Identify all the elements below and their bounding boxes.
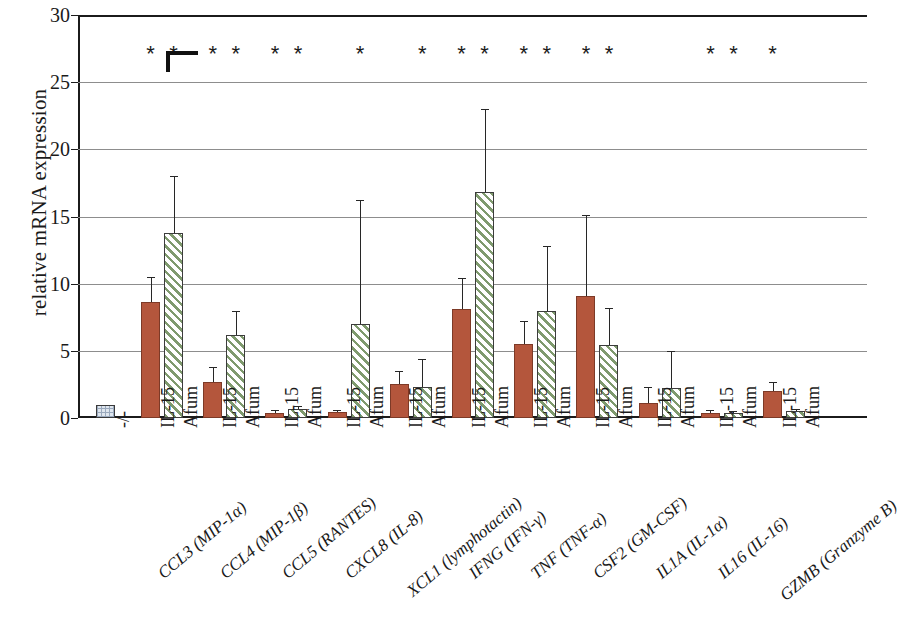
error-bar-cap	[605, 308, 613, 309]
error-bar-cap	[543, 246, 551, 247]
significance-asterisk: *	[542, 43, 551, 65]
significance-asterisk: *	[231, 43, 240, 65]
gridline	[78, 82, 867, 83]
y-axis-tick-label: 20	[30, 139, 70, 159]
y-axis-tick-mark	[71, 149, 78, 150]
significance-asterisk: *	[768, 43, 777, 65]
error-bar-cap	[458, 278, 466, 279]
y-axis-tick-label: 0	[30, 408, 70, 428]
error-bar	[609, 308, 610, 346]
x-axis-condition-label: Afum	[803, 386, 824, 428]
significance-asterisk: *	[294, 43, 303, 65]
error-bar	[151, 277, 152, 303]
x-axis-condition-label: IL-15	[158, 387, 179, 428]
x-axis-condition-label: Afum	[243, 386, 264, 428]
error-bar	[648, 387, 649, 403]
error-bar-cap	[271, 410, 279, 411]
error-bar	[547, 246, 548, 310]
significance-asterisk: *	[208, 43, 217, 65]
significance-asterisk: *	[356, 43, 365, 65]
x-axis-condition-label: IL-15	[344, 387, 365, 428]
x-axis-condition-label: Afum	[181, 386, 202, 428]
error-bar-cap	[644, 387, 652, 388]
y-axis-tick-mark	[71, 284, 78, 285]
y-axis-tick-mark	[71, 15, 78, 16]
gridline	[78, 149, 867, 150]
gridline	[78, 284, 867, 285]
error-bar-cap	[418, 359, 426, 360]
significance-asterisk: *	[706, 43, 715, 65]
significance-asterisk: *	[418, 43, 427, 65]
y-axis-tick-mark	[71, 418, 78, 419]
significance-asterisk: *	[146, 43, 155, 65]
significance-asterisk: *	[457, 43, 466, 65]
error-bar	[360, 200, 361, 324]
x-axis-condition-label: Afum	[367, 386, 388, 428]
y-axis-title: relative mRNA expression	[27, 68, 52, 338]
gridline	[78, 217, 867, 218]
x-axis-condition-label: IL-15	[406, 387, 427, 428]
y-axis-tick-label: 15	[30, 207, 70, 227]
x-axis-condition-label: IL-15	[220, 387, 241, 428]
error-bar-cap	[333, 410, 341, 411]
error-bar-cap	[147, 277, 155, 278]
y-axis-tick-mark	[71, 217, 78, 218]
error-bar	[773, 382, 774, 391]
significance-asterisk: *	[729, 43, 738, 65]
significance-asterisk: *	[605, 43, 614, 65]
error-bar	[462, 278, 463, 309]
plot-area: *****************	[78, 15, 867, 418]
significance-asterisk: *	[480, 43, 489, 65]
x-axis-condition-label: Afum	[429, 386, 450, 428]
x-axis-condition-label: IL-15	[531, 387, 552, 428]
legend-bracket-icon	[166, 51, 198, 72]
error-bar	[213, 367, 214, 382]
y-axis-tick-label: 25	[30, 72, 70, 92]
y-axis-tick-label: 30	[30, 5, 70, 25]
x-axis-condition-label: Afum	[616, 386, 637, 428]
x-axis-condition-label: Afum	[492, 386, 513, 428]
y-axis-tick-mark	[71, 351, 78, 352]
x-axis-condition-label: IL-15	[717, 387, 738, 428]
error-bar-cap	[170, 176, 178, 177]
gridline	[78, 351, 867, 352]
error-bar-cap	[481, 109, 489, 110]
x-axis-condition-label: IL-15	[655, 387, 676, 428]
error-bar-cap	[209, 367, 217, 368]
error-bar	[671, 351, 672, 389]
error-bar	[524, 321, 525, 344]
y-axis-tick-mark	[71, 82, 78, 83]
x-axis-condition-label: IL-15	[282, 387, 303, 428]
error-bar-cap	[356, 200, 364, 201]
significance-asterisk: *	[519, 43, 528, 65]
error-bar-cap	[706, 410, 714, 411]
plot-frame-top	[78, 15, 867, 17]
error-bar-cap	[769, 382, 777, 383]
significance-asterisk: *	[271, 43, 280, 65]
error-bar-cap	[582, 215, 590, 216]
x-axis-condition-label: IL-15	[780, 387, 801, 428]
x-axis-condition-label: IL-15	[469, 387, 490, 428]
x-axis-condition-label: Afum	[554, 386, 575, 428]
significance-asterisk: *	[582, 43, 591, 65]
x-axis-condition-label: IL-15	[593, 387, 614, 428]
error-bar	[422, 359, 423, 387]
error-bar	[586, 215, 587, 296]
x-axis-condition-label: Afum	[305, 386, 326, 428]
error-bar	[236, 311, 237, 335]
x-axis-condition-label: Afum	[678, 386, 699, 428]
y-axis-tick-label: 5	[30, 341, 70, 361]
error-bar	[485, 109, 486, 192]
x-axis-condition-label: Afum	[740, 386, 761, 428]
error-bar-cap	[395, 371, 403, 372]
bar-afum	[475, 192, 494, 418]
error-bar	[399, 371, 400, 384]
error-bar	[174, 176, 175, 232]
y-axis-tick-label: 10	[30, 274, 70, 294]
error-bar-cap	[520, 321, 528, 322]
x-axis-label-reference: -/-	[113, 411, 134, 428]
error-bar-cap	[667, 351, 675, 352]
x-axis-category-label: GZMB (Granzyme B)	[776, 496, 901, 605]
error-bar-cap	[232, 311, 240, 312]
